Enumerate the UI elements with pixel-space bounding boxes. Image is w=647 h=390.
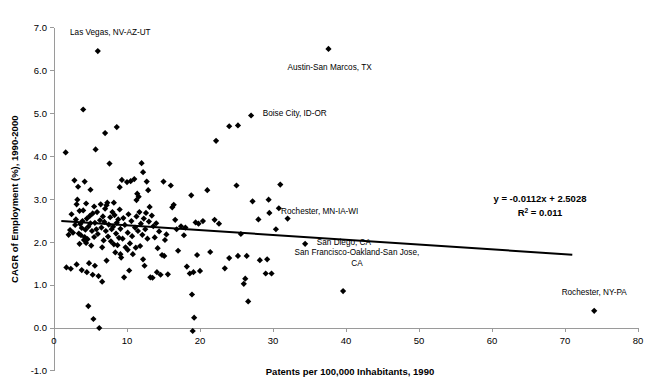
data-point: [197, 268, 203, 274]
data-point: [105, 233, 111, 239]
y-tick-label: 3.0: [34, 194, 47, 205]
data-point: [245, 298, 251, 304]
x-tick-label: 80: [633, 335, 644, 346]
data-point: [103, 258, 109, 264]
data-point: [83, 200, 89, 206]
data-point: [162, 237, 168, 243]
data-point: [325, 46, 331, 52]
data-point: [147, 204, 153, 210]
point-label: Austin-San Marcos, TX: [288, 63, 373, 72]
data-point: [244, 253, 250, 259]
data-point: [165, 271, 171, 277]
data-point: [249, 198, 255, 204]
data-point: [74, 261, 80, 267]
data-point: [130, 251, 136, 257]
data-point: [144, 179, 150, 185]
data-point: [207, 249, 213, 255]
data-point: [85, 303, 91, 309]
data-point: [112, 249, 118, 255]
data-point: [74, 197, 80, 203]
data-point: [139, 232, 145, 238]
data-point: [91, 203, 97, 209]
data-point: [222, 265, 228, 271]
data-point: [204, 187, 210, 193]
data-point: [212, 217, 218, 223]
point-label: San Francisco-Oakland-San Jose,: [295, 248, 420, 257]
data-point: [90, 316, 96, 322]
data-point: [273, 226, 279, 232]
data-point: [101, 237, 107, 243]
data-point: [285, 215, 291, 221]
point-label: CA: [351, 259, 363, 268]
regression-equation: y = -0.0112x + 2.5028R2 = 0.011: [494, 193, 587, 218]
scatter-chart: -1.00.01.02.03.04.05.06.07.0010203040506…: [0, 0, 647, 390]
data-points: [63, 46, 598, 334]
data-point: [140, 169, 146, 175]
data-point: [93, 146, 99, 152]
x-tick-label: 70: [560, 335, 571, 346]
data-point: [591, 308, 597, 314]
annotations: Las Vegas, NV-AZ-UTAustin-San Marcos, TX…: [70, 28, 627, 296]
data-point: [71, 177, 77, 183]
data-point: [152, 234, 158, 240]
data-point: [264, 256, 270, 262]
data-point: [129, 233, 135, 239]
y-tick-label: 1.0: [34, 279, 47, 290]
data-point: [63, 149, 69, 155]
data-point: [255, 216, 261, 222]
y-tick-label: 2.0: [34, 237, 47, 248]
data-point: [128, 218, 134, 224]
data-point: [226, 255, 232, 261]
data-point: [125, 211, 131, 217]
data-point: [141, 215, 147, 221]
y-tick-label: -1.0: [31, 365, 47, 376]
data-point: [74, 201, 80, 207]
data-point: [143, 210, 149, 216]
data-point: [242, 276, 248, 282]
data-point: [213, 138, 219, 144]
y-tick-label: 7.0: [34, 22, 47, 33]
data-point: [191, 315, 197, 321]
data-point: [226, 123, 232, 129]
data-point: [86, 260, 92, 266]
point-label: Rochester, MN-IA-WI: [281, 207, 358, 216]
data-point: [235, 122, 241, 128]
data-point: [125, 230, 131, 236]
data-point: [82, 179, 88, 185]
data-point: [277, 182, 283, 188]
data-point: [268, 270, 274, 276]
data-point: [235, 253, 241, 259]
data-point: [99, 279, 105, 285]
y-tick-label: 6.0: [34, 65, 47, 76]
data-point: [126, 267, 132, 273]
data-point: [75, 184, 81, 190]
data-point: [184, 264, 190, 270]
data-point: [216, 221, 222, 227]
data-point: [120, 215, 126, 221]
data-point: [302, 241, 308, 247]
data-point: [117, 206, 123, 212]
data-point: [90, 272, 96, 278]
data-point: [117, 184, 123, 190]
data-point: [257, 257, 263, 263]
data-point: [233, 182, 239, 188]
data-point: [194, 252, 200, 258]
x-tick-label: 10: [122, 335, 133, 346]
x-axis-ticks: 01020304050607080: [51, 328, 643, 346]
data-point: [139, 160, 145, 166]
data-point: [190, 328, 196, 334]
data-point: [103, 228, 109, 234]
x-tick-label: 40: [341, 335, 352, 346]
equation-line: y = -0.0112x + 2.5028: [494, 193, 587, 204]
data-point: [156, 228, 162, 234]
data-point: [145, 187, 151, 193]
data-point: [68, 211, 74, 217]
data-point: [155, 245, 161, 251]
point-label: Boise City, ID-OR: [263, 109, 327, 118]
data-point: [248, 112, 254, 118]
data-point: [102, 130, 108, 136]
data-point: [87, 187, 93, 193]
x-tick-label: 50: [414, 335, 425, 346]
data-point: [111, 200, 117, 206]
data-point: [96, 325, 102, 331]
